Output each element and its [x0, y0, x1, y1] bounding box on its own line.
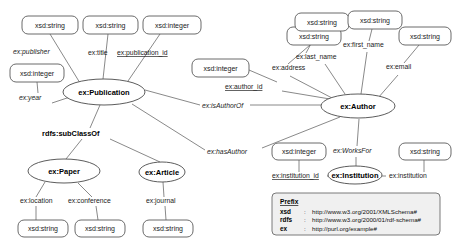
edge-line — [37, 82, 38, 93]
edge-line — [145, 90, 200, 105]
property-label-ex-title: ex:title — [88, 49, 108, 56]
rdf-schema-diagram: xsd:stringxsd:stringxsd:integerxsd:integ… — [0, 0, 454, 251]
diagram-canvas: xsd:stringxsd:stringxsd:integerxsd:integ… — [0, 0, 454, 251]
class-node-label: ex:Author — [340, 102, 375, 111]
edge-line — [90, 105, 100, 128]
property-label-ex-first-name: ex:first_name — [343, 41, 384, 49]
class-node-label: ex:Publication — [78, 88, 130, 97]
literal-node-label: xsd:string — [307, 19, 337, 27]
edge-line — [128, 34, 160, 81]
legend-prefix-key: rdfs — [280, 216, 293, 223]
property-label-ex-journal: ex:journal — [146, 197, 176, 205]
edge-line — [165, 206, 166, 220]
property-label-ex-year: ex:year — [19, 94, 42, 102]
legend-prefix-uri: http://www.w3.org/2001/XMLSchema# — [312, 208, 417, 215]
literal-node-label: xsd:string — [360, 17, 390, 25]
property-label-ex-email: ex:email — [386, 63, 412, 70]
property-label-ex-institution: ex:institution — [389, 172, 427, 179]
edge-line — [282, 91, 330, 99]
literal-node-label: xsd:string — [28, 225, 58, 233]
edge-line — [96, 206, 98, 220]
class-node-label: ex:Paper — [48, 167, 80, 176]
edge-line — [290, 76, 332, 98]
class-node-label: ex:Institution — [331, 171, 378, 180]
property-label-ex-author-id: ex:author_id — [225, 83, 263, 91]
edge-line — [163, 182, 164, 197]
literal-node-label: xsd:integer — [20, 70, 55, 78]
legend-prefix-uri: http://purl.org/example# — [312, 225, 378, 232]
edge-line — [110, 139, 160, 162]
literal-node-label: xsd:string — [35, 22, 65, 30]
legend-title: Prefix — [280, 198, 299, 205]
edge-line — [404, 45, 419, 63]
edge-line — [66, 139, 82, 159]
property-label-ex-location: ex:location — [20, 197, 53, 204]
property-label-ex-last-name: ex:last_name — [296, 53, 337, 61]
literal-node-label: xsd:string — [410, 148, 440, 156]
literal-node-label: xsd:string — [85, 225, 115, 233]
property-label-ex-conference: ex:conference — [68, 197, 111, 204]
edge-line — [103, 34, 108, 79]
edge-line — [325, 64, 345, 94]
literal-node-label: xsd:integer — [203, 65, 238, 73]
literal-node-label: xsd:string — [96, 22, 126, 30]
edge-line — [249, 70, 277, 82]
property-label-ex-publisher: ex:publisher — [13, 48, 50, 56]
literal-node-label: xsd:string — [410, 33, 440, 41]
literal-node-label: xsd:string — [153, 225, 183, 233]
legend-prefix-uri: http://www.w3.org/2000/01/rdf-schema# — [312, 216, 422, 223]
legend-prefix-key: xsd — [280, 208, 291, 215]
literal-node-label: xsd:integer — [155, 22, 190, 30]
edge-line — [132, 104, 205, 150]
edge-line — [36, 182, 45, 197]
edge-line — [78, 183, 92, 197]
property-label-ex-institution-id: ex:institution_id — [272, 172, 319, 180]
edge-line — [357, 119, 359, 146]
property-label-ex-works-for: ex:WorksFor — [333, 147, 372, 154]
legend-separator: : — [304, 225, 306, 232]
class-node-label: ex:Article — [145, 168, 179, 177]
property-label-ex-address: ex:address — [272, 64, 306, 71]
property-label-ex-is-author-of: ex:isAuthorOf — [202, 102, 244, 109]
edge-line — [361, 52, 367, 94]
property-label-rdfs-subclassof: rdfs:subClassOf — [42, 129, 100, 138]
edge-line — [378, 75, 398, 98]
literal-node-label: xsd:string — [299, 33, 329, 41]
legend-prefix-key: ex — [280, 225, 288, 232]
legend-separator: : — [304, 208, 306, 215]
edge-line — [369, 29, 372, 41]
property-label-ex-publication-id: ex:publication_id — [117, 49, 168, 57]
legend-separator: : — [304, 216, 306, 223]
property-label-ex-has-author: ex:hasAuthor — [207, 148, 248, 155]
literal-node-label: xsd:integer — [282, 148, 317, 156]
